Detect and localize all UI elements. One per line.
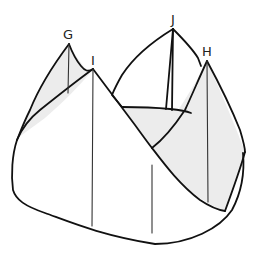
edge-j-post-right — [172, 29, 173, 110]
vertex-labels: G I J H — [63, 12, 212, 68]
edge-j-right — [173, 29, 201, 66]
edge-j-left — [112, 29, 173, 107]
label-g: G — [63, 27, 73, 42]
label-h: H — [202, 44, 212, 59]
label-i: I — [91, 53, 95, 68]
label-j: J — [170, 12, 175, 27]
peaks-diagram: G I J H — [0, 0, 260, 253]
face-g-left — [19, 44, 93, 137]
altitude-i — [92, 69, 93, 226]
